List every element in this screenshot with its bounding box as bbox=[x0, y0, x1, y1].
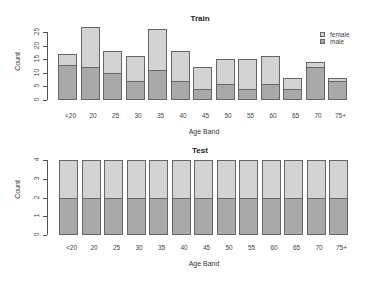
x-tick-label: 70 bbox=[314, 112, 321, 119]
bar-segment-male bbox=[193, 89, 212, 100]
y-tick bbox=[43, 73, 47, 74]
bar-20 bbox=[81, 27, 100, 100]
y-tick-label: 10 bbox=[33, 66, 40, 78]
x-tick-label: 20 bbox=[89, 112, 96, 119]
bar-segment-female bbox=[148, 29, 167, 71]
y-tick bbox=[43, 216, 47, 217]
x-tick-label: 25 bbox=[112, 112, 119, 119]
bar-50 bbox=[216, 59, 235, 100]
bar-20 bbox=[82, 160, 101, 235]
bar-segment-female bbox=[329, 160, 348, 199]
y-tick bbox=[43, 179, 47, 180]
x-tick-label: 70 bbox=[315, 244, 322, 251]
bar-segment-male bbox=[149, 198, 168, 236]
bar-30 bbox=[126, 56, 145, 100]
bar-segment-female bbox=[127, 160, 146, 199]
bar-70 bbox=[306, 62, 325, 100]
x-tick-label: 35 bbox=[158, 244, 165, 251]
bar-<20 bbox=[59, 160, 78, 235]
y-axis bbox=[47, 32, 48, 100]
bar-segment-male bbox=[103, 73, 122, 100]
bar-segment-male bbox=[194, 198, 213, 236]
y-axis bbox=[47, 160, 48, 235]
x-tick-label: 75+ bbox=[336, 244, 347, 251]
bar-segment-female bbox=[307, 160, 326, 199]
y-tick bbox=[43, 198, 47, 199]
y-tick-label: 0 bbox=[33, 229, 40, 241]
bar-segment-male bbox=[328, 81, 347, 100]
x-tick-label: 40 bbox=[180, 244, 187, 251]
bar-40 bbox=[171, 51, 190, 100]
legend-label: male bbox=[330, 38, 344, 45]
bar-70 bbox=[307, 160, 326, 235]
bar-segment-male bbox=[217, 198, 236, 236]
bar-segment-female bbox=[81, 27, 100, 69]
bar-segment-male bbox=[216, 84, 235, 100]
bar-segment-male bbox=[127, 198, 146, 236]
x-tick-label: 45 bbox=[203, 244, 210, 251]
bar-segment-female bbox=[193, 67, 212, 90]
x-tick-label: 35 bbox=[157, 112, 164, 119]
female-swatch-icon bbox=[320, 32, 325, 37]
y-tick bbox=[43, 86, 47, 87]
bar-segment-male bbox=[148, 70, 167, 100]
bar-segment-male bbox=[306, 67, 325, 100]
bar-35 bbox=[148, 29, 167, 100]
y-tick-label: 15 bbox=[33, 53, 40, 65]
y-tick bbox=[43, 235, 47, 236]
legend-label: female bbox=[330, 31, 350, 38]
bar-segment-male bbox=[238, 89, 257, 100]
y-tick-label: 2 bbox=[33, 191, 40, 203]
y-tick bbox=[43, 46, 47, 47]
chart-title: Train bbox=[190, 14, 209, 23]
bar-segment-male bbox=[283, 89, 302, 100]
bar-segment-male bbox=[58, 65, 77, 100]
bar-segment-female bbox=[262, 160, 281, 199]
y-tick-label: 20 bbox=[33, 39, 40, 51]
y-tick bbox=[43, 160, 47, 161]
bar-segment-female bbox=[194, 160, 213, 199]
legend: female male bbox=[320, 31, 350, 45]
bar-segment-female bbox=[284, 160, 303, 199]
y-tick bbox=[43, 100, 47, 101]
y-tick bbox=[43, 59, 47, 60]
x-tick-label: 25 bbox=[113, 244, 120, 251]
x-tick-label: 55 bbox=[248, 244, 255, 251]
x-tick-label: 30 bbox=[134, 112, 141, 119]
x-tick-label: 50 bbox=[225, 244, 232, 251]
bar-segment-female bbox=[103, 51, 122, 74]
bar-segment-male bbox=[82, 198, 101, 236]
bar-segment-male bbox=[262, 198, 281, 236]
y-axis-label: Count bbox=[14, 180, 21, 199]
bar-55 bbox=[238, 59, 257, 100]
bar-25 bbox=[103, 51, 122, 100]
y-axis-label: Count bbox=[14, 52, 21, 71]
legend-item-female: female bbox=[320, 31, 350, 38]
bar-segment-female bbox=[239, 160, 258, 199]
bar-65 bbox=[283, 78, 302, 100]
train-chart: Train Count Age Band 0510152025 <2020253… bbox=[0, 0, 368, 140]
bar-55 bbox=[239, 160, 258, 235]
bar-60 bbox=[262, 160, 281, 235]
bar-segment-male bbox=[81, 67, 100, 100]
x-axis-label: Age Band bbox=[189, 128, 220, 135]
x-tick-label: 50 bbox=[224, 112, 231, 119]
bar-35 bbox=[149, 160, 168, 235]
y-tick-label: 0 bbox=[33, 94, 40, 106]
x-tick-label: 45 bbox=[202, 112, 209, 119]
bar-segment-female bbox=[216, 59, 235, 84]
bar-segment-male bbox=[261, 84, 280, 100]
x-tick-label: 75+ bbox=[335, 112, 346, 119]
bar-segment-male bbox=[239, 198, 258, 236]
bar-segment-male bbox=[284, 198, 303, 236]
bar-segment-female bbox=[217, 160, 236, 199]
bar-segment-female bbox=[171, 51, 190, 82]
x-tick-label: 60 bbox=[270, 244, 277, 251]
x-tick-label: 65 bbox=[292, 112, 299, 119]
x-tick-label: 40 bbox=[179, 112, 186, 119]
x-tick-label: <20 bbox=[66, 244, 77, 251]
bar-segment-female bbox=[172, 160, 191, 199]
bar-segment-male bbox=[307, 198, 326, 236]
y-tick bbox=[43, 32, 47, 33]
bar-40 bbox=[172, 160, 191, 235]
